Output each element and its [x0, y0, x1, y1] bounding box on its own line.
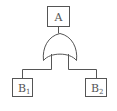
child-b2-subscript: 2 [99, 88, 103, 96]
connector-right [69, 54, 97, 79]
child-b1-label: B [18, 82, 26, 95]
fault-tree-diagram: A B 1 B 2 [0, 0, 117, 111]
child-b2-label: B [91, 82, 99, 95]
child-b1-subscript: 1 [26, 88, 30, 96]
top-event-label: A [54, 11, 64, 24]
or-gate-icon [43, 34, 76, 61]
